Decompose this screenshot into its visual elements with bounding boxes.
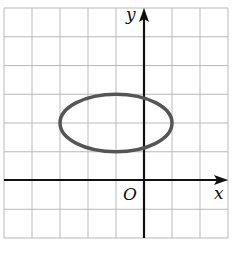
y-axis-label: y: [125, 4, 136, 24]
grid: [4, 8, 228, 238]
x-axis-label: x: [214, 183, 224, 203]
origin-label: O: [123, 184, 137, 204]
coordinate-plane: y x O: [0, 0, 232, 261]
